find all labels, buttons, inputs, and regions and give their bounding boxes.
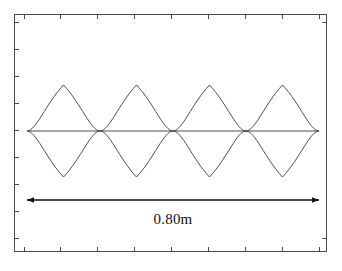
standing-wave-diagram: 0.80m [0, 0, 342, 271]
figure-background [0, 0, 342, 271]
dimension-label: 0.80m [154, 211, 193, 227]
figure-container: 0.80m [0, 0, 342, 271]
